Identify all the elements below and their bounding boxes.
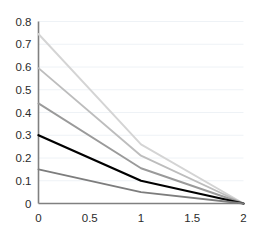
x-tick-labels: 00.511.52 xyxy=(35,212,246,224)
y-tick-label: 0.4 xyxy=(16,107,33,119)
x-tick-label: 2 xyxy=(240,212,246,224)
y-tick-label: 0.3 xyxy=(16,129,32,141)
x-tick-label: 0.5 xyxy=(82,212,98,224)
y-tick-label: 0.2 xyxy=(16,152,32,164)
x-tick-label: 1 xyxy=(138,212,144,224)
x-tick-label: 1.5 xyxy=(184,212,200,224)
y-tick-label: 0.5 xyxy=(16,84,32,96)
y-tick-label: 0.8 xyxy=(16,16,32,28)
y-tick-label: 0.6 xyxy=(16,61,32,73)
y-tick-label: 0.7 xyxy=(16,38,32,50)
chart-plot-area: 00.10.20.30.40.50.60.70.8 00.511.52 xyxy=(0,0,260,238)
y-tick-labels: 00.10.20.30.40.50.60.70.8 xyxy=(16,16,33,210)
series-line xyxy=(39,34,244,203)
y-tick-label: 0 xyxy=(25,198,31,210)
series-lines xyxy=(39,34,244,203)
line-chart: 00.10.20.30.40.50.60.70.8 00.511.52 xyxy=(0,0,260,238)
gridlines xyxy=(39,22,244,181)
series-line xyxy=(39,68,244,203)
x-tick-label: 0 xyxy=(35,212,41,224)
y-tick-label: 0.1 xyxy=(16,175,32,187)
